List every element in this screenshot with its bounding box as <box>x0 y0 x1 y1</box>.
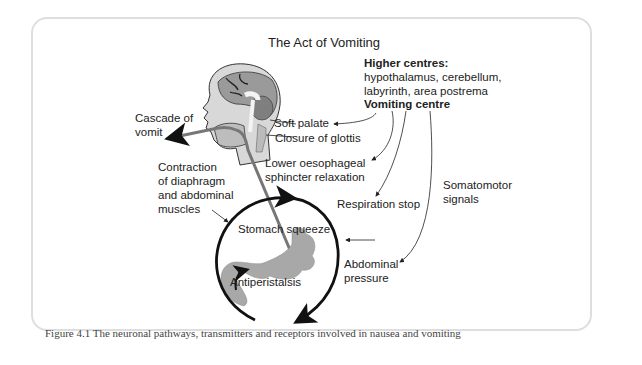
respiration-stop-label: Respiration stop <box>337 198 420 212</box>
higher-centres-heading: Higher centres: <box>364 57 448 71</box>
somatomotor-label-line2: signals <box>443 193 479 207</box>
contraction-label-line2: of diaphragm <box>158 175 225 189</box>
les-label-line1: Lower oesophageal <box>265 157 365 171</box>
cascade-label-line1: Cascade of <box>135 112 193 126</box>
contraction-label-line3: and abdominal <box>158 189 233 203</box>
figure-title: The Act of Vomiting <box>268 36 380 50</box>
arrow-to-abdominal-icon <box>400 111 432 262</box>
abdominal-pressure-line1: Abdominal <box>344 258 398 272</box>
les-label-line2: sphincter relaxation <box>265 171 365 185</box>
figure-caption: Figure 4.1 The neuronal pathways, transm… <box>45 327 461 339</box>
arrow-to-les-icon <box>372 111 393 160</box>
head-illustration-icon <box>203 64 280 165</box>
higher-centres-line2: labyrinth, area postrema <box>364 85 488 99</box>
contraction-label-line4: muscles <box>158 203 200 217</box>
arrow-to-diaphragm-icon <box>212 210 228 222</box>
antiperistalsis-label: Antiperistalsis <box>230 276 301 290</box>
higher-centres-line1: hypothalamus, cerebellum, <box>364 71 501 85</box>
contraction-label-line1: Contraction <box>158 161 217 175</box>
abdominal-pressure-line2: pressure <box>344 272 389 286</box>
cascade-label-line2: vomit <box>135 126 162 140</box>
stomach-illustration-icon <box>221 228 315 306</box>
arrow-to-soft-palate-icon <box>334 113 376 124</box>
soft-palate-label: Soft palate <box>274 117 329 131</box>
closure-glottis-label: Closure of glottis <box>275 132 361 146</box>
vomiting-centre-label: Vomiting centre <box>364 98 450 112</box>
somatomotor-label-line1: Somatomotor <box>443 179 512 193</box>
stomach-squeeze-label: Stomach squeeze <box>238 223 330 237</box>
